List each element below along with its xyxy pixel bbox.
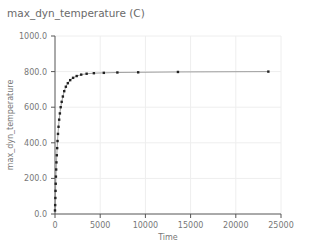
y-tick-label: 0.0 xyxy=(34,210,47,219)
data-point-marker xyxy=(177,71,179,73)
data-point-marker xyxy=(67,82,69,84)
x-axis-label: Time xyxy=(157,233,178,242)
data-point-marker xyxy=(57,133,59,135)
y-tick-label: 200.0 xyxy=(24,174,47,183)
data-point-marker xyxy=(56,154,58,156)
y-tick-label: 1000.0 xyxy=(19,32,47,41)
x-tick-label: 10000 xyxy=(133,221,158,230)
data-point-marker xyxy=(56,140,58,142)
data-point-marker xyxy=(54,190,56,192)
data-point-marker xyxy=(55,168,57,170)
data-point-marker xyxy=(103,72,105,74)
data-point-marker xyxy=(75,75,77,77)
x-tick-label: 0 xyxy=(52,221,57,230)
gridlines xyxy=(55,36,281,214)
data-point-marker xyxy=(55,183,57,185)
data-point-marker xyxy=(54,209,56,211)
y-tick-label: 600.0 xyxy=(24,103,47,112)
y-tick-label: 400.0 xyxy=(24,139,47,148)
data-point-marker xyxy=(116,71,118,73)
data-point-marker xyxy=(80,73,82,75)
data-point-marker xyxy=(69,79,71,81)
data-point-marker xyxy=(65,86,67,88)
y-tick-label: 800.0 xyxy=(24,68,47,77)
data-point-marker xyxy=(137,71,139,73)
data-point-marker xyxy=(54,204,56,206)
data-point-marker xyxy=(60,101,62,103)
line-chart: 0.0200.0400.0600.0800.01000.005000100001… xyxy=(0,0,310,246)
data-point-marker xyxy=(57,126,59,128)
data-point-marker xyxy=(93,72,95,74)
series-line xyxy=(55,72,268,211)
data-point-marker xyxy=(54,197,56,199)
data-point-marker xyxy=(267,70,269,72)
data-point-marker xyxy=(63,90,65,92)
data-point-marker xyxy=(59,106,61,108)
data-point-marker xyxy=(58,118,60,120)
tick-labels: 0.0200.0400.0600.0800.01000.005000100001… xyxy=(19,32,294,230)
data-point-marker xyxy=(62,95,64,97)
x-tick-label: 20000 xyxy=(223,221,248,230)
x-tick-label: 15000 xyxy=(178,221,203,230)
data-series xyxy=(54,70,270,211)
y-axis-label: max_dyn_temperature xyxy=(6,80,15,171)
axes xyxy=(51,36,281,218)
data-point-marker xyxy=(85,73,87,75)
data-point-marker xyxy=(55,175,57,177)
data-point-marker xyxy=(55,161,57,163)
data-point-marker xyxy=(56,147,58,149)
data-point-marker xyxy=(59,112,61,114)
x-tick-label: 5000 xyxy=(90,221,110,230)
x-tick-label: 25000 xyxy=(268,221,293,230)
data-point-marker xyxy=(72,77,74,79)
